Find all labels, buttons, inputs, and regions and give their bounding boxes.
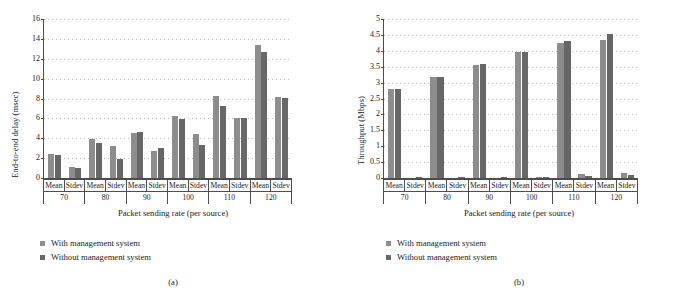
x-axis-subcategory-cell: Mean [85,180,106,192]
bar [151,151,157,178]
bars-a [44,19,292,178]
x-axis-group-cell: 120 [595,192,637,205]
bar [69,167,75,178]
bar [607,34,613,178]
legend-label: Without management system [51,252,151,262]
x-axis-subcategory-cell: Stdev [532,180,553,192]
legend-item: With management system [40,238,151,248]
x-axis-subcategory-cell: Mean [167,180,188,192]
plot-area-a [44,19,292,178]
bar [255,45,261,178]
bar [110,146,116,178]
x-axis-group-cell: 100 [510,192,552,205]
x-axis-group-row: 708090100110120 [384,192,638,205]
legend-label: With management system [397,238,486,248]
panel-caption-a: (a) [0,277,346,287]
bar [241,118,247,178]
bar [282,98,288,178]
figure-root: End-to-end delay (msec) 0246810121416 Me… [0,0,692,299]
bar [564,41,570,178]
plot-area-b [384,19,638,178]
x-axis-group-cell: 80 [426,192,468,205]
x-axis-table-b: MeanStdevMeanStdevMeanStdevMeanStdevMean… [383,179,638,204]
x-axis-subcategory-cell: Stdev [616,180,637,192]
x-axis-table-a: MeanStdevMeanStdevMeanStdevMeanStdevMean… [43,179,292,204]
x-axis-subcategory-cell: Stdev [447,180,468,192]
bar [395,89,401,178]
legend-a: With management system Without managemen… [40,238,151,266]
x-axis-group-cell: 100 [167,192,208,205]
panel-a: End-to-end delay (msec) 0246810121416 Me… [0,0,346,299]
legend-label: Without management system [397,252,497,262]
bar [480,64,486,178]
bar [522,52,528,178]
bar [75,168,81,178]
bar [388,89,394,178]
bar [137,132,143,178]
y-axis-tick-label: 3 [376,79,380,87]
x-axis-group-cell: 70 [44,192,85,205]
x-axis-group-row: 708090100110120 [44,192,292,205]
legend-item: Without management system [40,252,151,262]
bar [515,52,521,178]
x-axis-group-cell: 110 [553,192,595,205]
y-axis-tick-label: 16 [32,15,40,23]
y-axis-tick-label: 4 [36,134,40,142]
x-axis-group-cell: 110 [209,192,250,205]
bars-b [384,19,638,178]
x-axis-subcategory-cell: Mean [126,180,147,192]
y-axis-tick-label: 14 [32,35,40,43]
legend-swatch-icon [386,241,391,246]
x-axis-subcategory-cell: Mean [44,180,65,192]
legend-b: With management system Without managemen… [386,238,497,266]
x-axis-subcategory-cell: Mean [553,180,574,192]
x-axis-sub-row: MeanStdevMeanStdevMeanStdevMeanStdevMean… [384,180,638,192]
bar [158,148,164,178]
x-axis-subcategory-cell: Stdev [229,180,250,192]
y-axis-tick-label: 1 [376,142,380,150]
x-axis-subcategory-cell: Mean [250,180,271,192]
bar [430,77,436,178]
x-axis-title-a: Packet sending rate (per source) [0,208,346,218]
bar [89,139,95,178]
x-axis-subcategory-cell: Mean [510,180,531,192]
x-axis-subcategory-cell: Stdev [188,180,209,192]
bar [55,155,61,178]
y-axis-line-b [383,19,384,179]
y-axis-tick-label: 0.5 [370,158,380,166]
bar [557,43,563,178]
legend-item: With management system [386,238,497,248]
x-axis-group-cell: 90 [468,192,510,205]
bar [172,116,178,178]
bar [600,40,606,178]
bar [220,106,226,178]
legend-swatch-icon [40,241,45,246]
bar [437,77,443,178]
y-axis-tick-label: 2.5 [370,95,380,103]
bar [261,52,267,178]
bar [234,118,240,178]
bar [48,154,54,178]
y-axis-tick-label: 10 [32,75,40,83]
legend-swatch-icon [40,255,45,260]
y-axis-tick-label: 2 [36,154,40,162]
x-axis-group-cell: 80 [85,192,126,205]
bar [193,134,199,178]
x-axis-subcategory-cell: Stdev [489,180,510,192]
panel-b: Throughput (Mbps) 00.511.522.533.544.55 … [346,0,692,299]
x-axis-group-cell: 90 [126,192,167,205]
y-axis-line-a [43,19,44,179]
y-axis-tick-label: 1.5 [370,126,380,134]
bar [131,133,137,178]
y-axis-tick-label: 4.5 [370,31,380,39]
x-axis-subcategory-cell: Stdev [64,180,85,192]
x-axis-subcategory-cell: Mean [426,180,447,192]
y-axis-tick-label: 12 [32,55,40,63]
bar [473,65,479,178]
y-axis-tick-label: 2 [376,110,380,118]
legend-item: Without management system [386,252,497,262]
y-axis-tick-label: 3.5 [370,63,380,71]
x-axis-group-cell: 120 [250,192,291,205]
x-axis-group-cell: 70 [384,192,426,205]
x-axis-title-b: Packet sending rate (per source) [346,208,692,218]
